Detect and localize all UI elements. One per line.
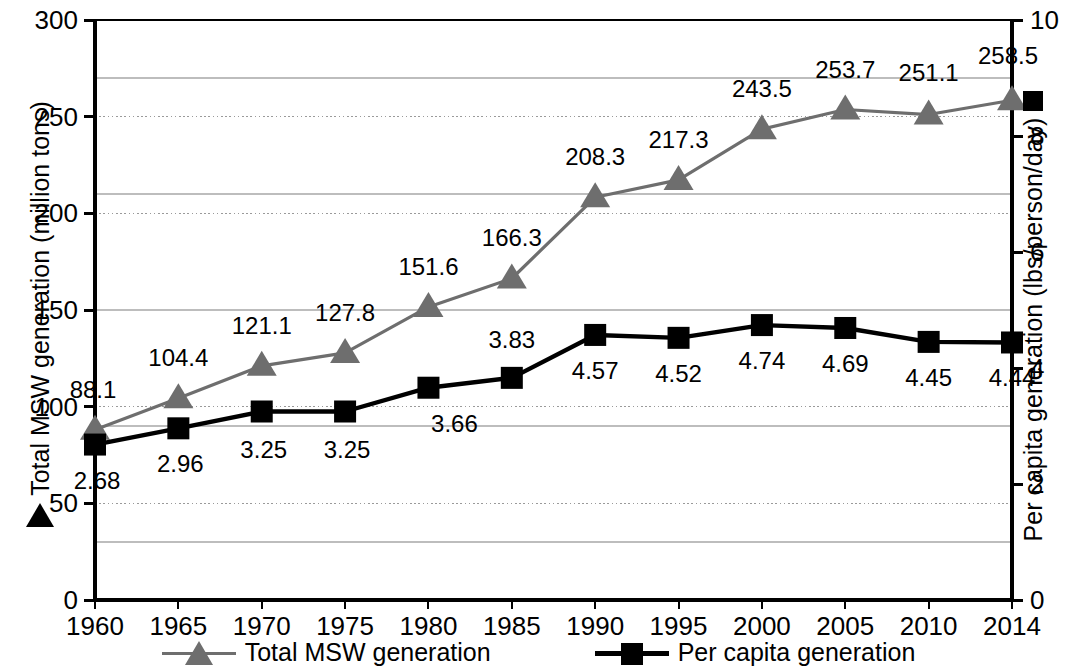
legend-marker-triangle-icon [162,640,236,666]
data-point-square-icon[interactable] [918,331,940,353]
data-point-square-icon[interactable] [84,434,106,456]
gridlines [95,78,1012,542]
left-axis-tick-label: 50 [49,490,78,516]
data-label-total-msw: 258.5 [978,44,1038,68]
data-point-square-icon[interactable] [584,324,606,346]
data-label-total-msw: 208.3 [565,145,625,169]
legend: Total MSW generation Per capita generati… [0,636,1077,669]
left-axis-tick-label: 200 [35,200,78,226]
series-total-msw-generation [80,85,1027,439]
data-label-total-msw: 166.3 [482,226,542,250]
left-axis-tick-label: 0 [64,587,78,613]
axis-ticks [84,20,1023,609]
right-axis-tick-label: 6 [1030,239,1044,265]
data-label-per-capita: 3.25 [240,438,287,462]
data-label-per-capita: 2.96 [157,452,204,476]
data-point-square-icon[interactable] [167,417,189,439]
data-label-total-msw: 217.3 [649,128,709,152]
square-icon [1023,91,1043,111]
data-label-total-msw: 243.5 [732,77,792,101]
data-label-total-msw: 253.7 [815,58,875,82]
data-point-square-icon[interactable] [668,327,690,349]
data-label-per-capita: 4.57 [572,359,619,383]
data-point-triangle-icon[interactable] [664,165,694,190]
data-label-per-capita: 4.74 [739,349,786,373]
right-axis-tick-label: 10 [1030,7,1059,33]
data-point-square-icon[interactable] [334,401,356,423]
data-label-total-msw: 88.1 [70,378,117,402]
data-label-per-capita: 3.66 [431,412,478,436]
data-point-square-icon[interactable] [417,377,439,399]
data-point-square-icon[interactable] [834,317,856,339]
series-line [95,100,1012,429]
data-label-total-msw: 127.8 [315,301,375,325]
right-axis-tick-label: 2 [1030,471,1044,497]
legend-marker-square-icon [595,640,669,666]
legend-item-per-capita-generation[interactable]: Per capita generation [595,638,916,667]
data-label-total-msw: 151.6 [398,255,458,279]
data-label-per-capita: 4.45 [905,366,952,390]
right-axis-tick-label: 0 [1030,587,1044,613]
legend-label-capita: Per capita generation [678,638,916,667]
data-point-square-icon[interactable] [251,401,273,423]
series-per-capita-generation [84,314,1023,455]
data-label-per-capita: 4.52 [655,362,702,386]
chart-container: Total MSW generation (million tons) Per … [0,0,1077,669]
data-label-total-msw: 121.1 [232,314,292,338]
plot-area [0,0,1077,669]
data-point-square-icon[interactable] [501,367,523,389]
left-axis-tick-label: 250 [35,104,78,130]
data-label-total-msw: 251.1 [899,61,959,85]
right-axis-tick-label: 8 [1030,123,1044,149]
data-label-per-capita: 4.44 [989,366,1036,390]
data-label-per-capita: 3.83 [488,328,535,352]
left-axis-tick-label: 150 [35,297,78,323]
data-label-total-msw: 104.4 [148,346,208,370]
data-label-per-capita: 4.69 [822,352,869,376]
data-label-per-capita: 2.68 [74,469,121,493]
data-point-triangle-icon[interactable] [830,95,860,120]
series-line [95,325,1012,444]
data-point-square-icon[interactable] [751,314,773,336]
data-label-per-capita: 3.25 [324,438,371,462]
legend-item-total-msw-generation[interactable]: Total MSW generation [162,638,491,667]
data-point-triangle-icon[interactable] [330,338,360,363]
legend-label-total: Total MSW generation [245,638,491,667]
left-axis-tick-label: 300 [35,7,78,33]
